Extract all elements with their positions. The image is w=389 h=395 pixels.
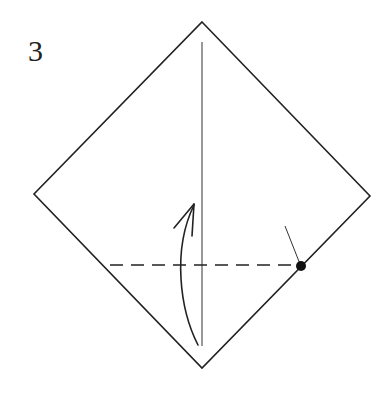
origami-diagram — [0, 0, 389, 395]
leader-line — [285, 226, 300, 264]
reference-dot — [296, 261, 306, 271]
fold-up-arrow-icon — [174, 204, 198, 345]
